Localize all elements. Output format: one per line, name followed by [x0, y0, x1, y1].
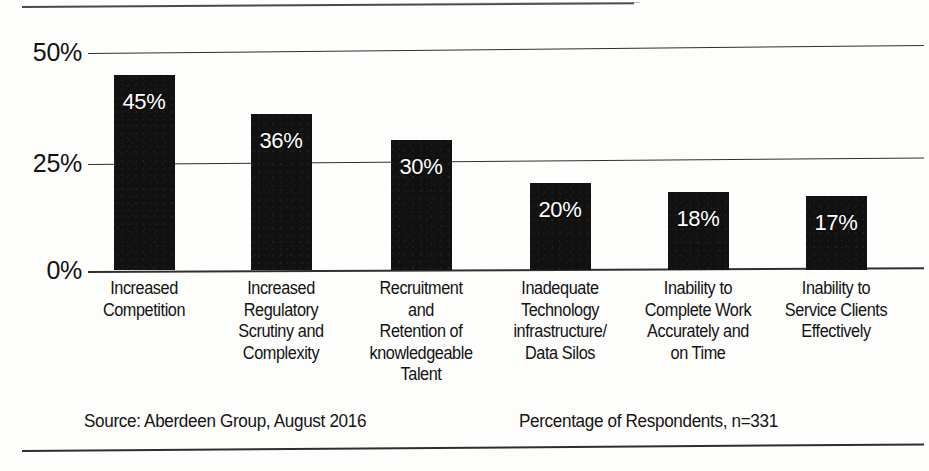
x-axis-label-line: Complete Work	[619, 300, 777, 322]
bar-series: 45% 36% 30% 20% 18% 17%	[0, 0, 929, 471]
bar-recruitment-retention: 30%	[391, 140, 452, 270]
x-axis-label-line: Recruitment	[348, 278, 495, 300]
x-axis-label-line: Inability to	[619, 278, 777, 300]
x-axis-label-3: InadequateTechnologyinfrastructure/Data …	[487, 278, 634, 364]
x-axis-label-line: Competition	[74, 300, 214, 322]
x-axis-label-2: RecruitmentandRetention ofknowledgeableT…	[348, 278, 495, 386]
x-axis-label-line: on Time	[619, 343, 777, 365]
x-axis-category-labels: IncreasedCompetition IncreasedRegulatory…	[0, 278, 929, 398]
source-note: Source: Aberdeen Group, August 2016	[84, 411, 366, 432]
bar-value-label: 36%	[251, 128, 312, 154]
x-axis-label-line: Talent	[348, 364, 495, 386]
x-axis-label-line: Service Clients	[759, 300, 913, 322]
x-axis-label-4: Inability toComplete WorkAccurately ando…	[619, 278, 777, 364]
x-axis-label-1: IncreasedRegulatoryScrutiny andComplexit…	[211, 278, 351, 364]
bar-inability-service-clients: 17%	[806, 196, 867, 270]
bar-value-label: 45%	[114, 89, 175, 115]
y-axis-tick-50: 50%	[10, 38, 82, 67]
x-axis-label-line: Scrutiny and	[211, 321, 351, 343]
bar-value-label: 30%	[391, 154, 452, 180]
chart-page: 50% 25% 0% 45% 36% 30% 20% 18% 17% Incre…	[0, 0, 929, 471]
bar-value-label: 20%	[530, 197, 591, 223]
x-axis-label-0: IncreasedCompetition	[74, 278, 214, 321]
x-axis-label-line: knowledgeable	[348, 343, 495, 365]
x-axis-label-line: and	[348, 300, 495, 322]
bar-value-label: 18%	[668, 206, 729, 232]
x-axis-label-line: Accurately and	[619, 321, 777, 343]
x-axis-label-line: Data Silos	[487, 343, 634, 365]
respondents-note: Percentage of Respondents, n=331	[519, 411, 778, 432]
x-axis-label-line: Inadequate	[487, 278, 634, 300]
bar-inability-complete-work: 18%	[668, 192, 729, 270]
bar-increased-regulatory-scrutiny: 36%	[251, 114, 312, 270]
x-axis-label-line: Complexity	[211, 343, 351, 365]
bar-inadequate-technology: 20%	[530, 183, 591, 270]
x-axis-label-5: Inability toService ClientsEffectively	[759, 278, 913, 343]
x-axis-label-line: Retention of	[348, 321, 495, 343]
x-axis-label-line: Increased	[74, 278, 214, 300]
x-axis-label-line: Effectively	[759, 321, 913, 343]
bar-value-label: 17%	[806, 210, 867, 236]
x-axis-label-line: Inability to	[759, 278, 913, 300]
x-axis-label-line: Regulatory	[211, 300, 351, 322]
bar-increased-competition: 45%	[114, 75, 175, 270]
x-axis-label-line: infrastructure/	[487, 321, 634, 343]
y-axis-tick-25: 25%	[10, 149, 82, 178]
x-axis-label-line: Increased	[211, 278, 351, 300]
x-axis-label-line: Technology	[487, 300, 634, 322]
